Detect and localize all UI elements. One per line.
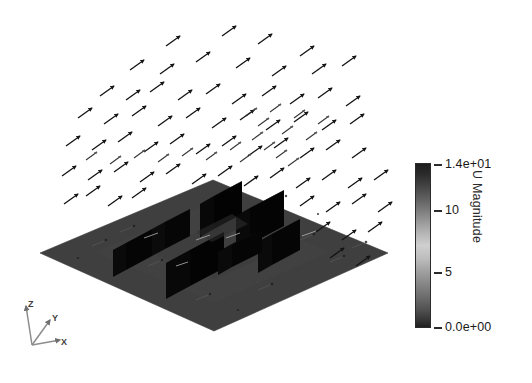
legend-label-max: 1.4e+01: [445, 158, 491, 171]
z-axis-line: [26, 306, 32, 345]
legend-tick-max: [434, 164, 442, 166]
visualization-window: 1.4e+01 10 5 0.0e+00 U Magnitude Z Y X: [0, 0, 532, 383]
x-axis-label: X: [61, 338, 67, 347]
legend-title: U Magnitude: [470, 170, 484, 330]
legend-label-10: 10: [445, 204, 459, 217]
legend-tick-min: [434, 327, 442, 329]
velocity-glyphs-dense[interactable]: [86, 104, 329, 166]
x-axis-line: [32, 340, 60, 345]
orientation-axes-widget[interactable]: Z Y X: [12, 292, 74, 354]
legend-label-5: 5: [445, 266, 452, 279]
y-axis-line: [32, 320, 50, 345]
legend-label-min: 0.0e+00: [445, 321, 491, 334]
color-legend[interactable]: 1.4e+01 10 5 0.0e+00 U Magnitude: [410, 150, 528, 340]
legend-tick-5: [434, 272, 442, 274]
legend-tick-10: [434, 210, 442, 212]
y-axis-label: Y: [52, 314, 58, 323]
z-axis-label: Z: [28, 300, 34, 309]
color-legend-bar[interactable]: [415, 163, 431, 328]
